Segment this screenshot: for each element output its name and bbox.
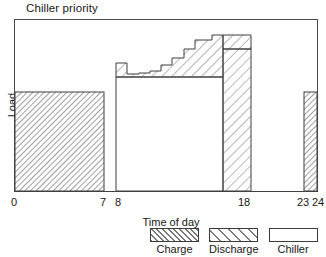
discharge-column (223, 49, 251, 191)
legend-item-charge: Charge (150, 228, 199, 255)
legend-label-discharge: Discharge (209, 243, 259, 255)
x-tick-24: 24 (312, 196, 324, 208)
legend-item-chiller: Chiller (269, 228, 318, 255)
x-tick-8: 8 (115, 196, 121, 208)
x-tick-18: 18 (238, 196, 250, 208)
legend-label-chiller: Chiller (277, 243, 308, 255)
chiller-base-block (116, 77, 223, 191)
x-axis-label-text: Time of day (142, 216, 199, 228)
charge-block-night (304, 92, 317, 191)
chart-legend: Charge Discharge Chiller (150, 228, 318, 255)
chart-figure: Chiller priority Load 0 7 8 18 23 (0, 0, 326, 257)
legend-label-charge: Charge (156, 243, 192, 255)
x-tick-23: 23 (297, 196, 309, 208)
x-tick-0: 0 (11, 196, 17, 208)
legend-swatch-discharge (209, 228, 258, 242)
x-axis-label: Time of day (0, 216, 326, 228)
legend-swatch-charge (150, 228, 199, 242)
legend-item-discharge: Discharge (209, 228, 259, 255)
legend-swatch-chiller (269, 228, 318, 242)
x-tick-7: 7 (100, 196, 106, 208)
discharge-top-step (223, 35, 251, 49)
charge-block-morning (15, 92, 104, 191)
